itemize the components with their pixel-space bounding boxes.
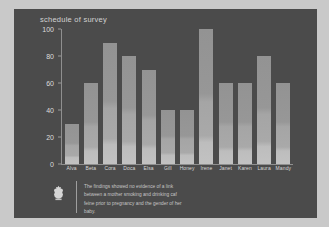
bar-slot	[235, 29, 254, 164]
y-axis-tick-label: 20	[46, 134, 54, 141]
bar-slot	[178, 29, 197, 164]
bar-series	[62, 29, 293, 164]
bar-slot	[255, 29, 274, 164]
y-axis: 020406080100	[40, 29, 58, 164]
bar-slot	[197, 29, 216, 164]
x-axis-tick-label: Alva	[62, 165, 81, 171]
x-axis-tick-label: Karen	[235, 165, 254, 171]
bar-honey	[180, 110, 194, 164]
bar-gill	[161, 110, 175, 164]
x-axis-tick-label: Doca	[120, 165, 139, 171]
caption-line: baby.	[84, 208, 295, 216]
bar-slot	[139, 29, 158, 164]
bar-laura	[257, 56, 271, 164]
y-axis-tick-label: 60	[46, 80, 54, 87]
x-axis-tick-label: Mandy	[274, 165, 293, 171]
bar-slot	[216, 29, 235, 164]
caption-line: feine prior to pregnancy and the gender …	[84, 200, 295, 208]
bar-alva	[65, 124, 79, 165]
slide-footer: The findings showed no evidence of a lin…	[40, 181, 295, 215]
bar-mandy	[276, 83, 290, 164]
bar-karen	[238, 83, 252, 164]
bar-slot	[81, 29, 100, 164]
bar-janet	[219, 83, 233, 164]
bar-chart-plot: 020406080100	[40, 29, 293, 174]
y-axis-tick-label: 0	[50, 161, 54, 168]
crest-emblem-icon	[40, 181, 76, 201]
y-axis-tick-label: 40	[46, 107, 54, 114]
bar-beta	[84, 83, 98, 164]
x-axis-tick-label: Irene	[197, 165, 216, 171]
y-axis-tick-label: 100	[42, 26, 54, 33]
bar-slot	[274, 29, 293, 164]
bar-slot	[62, 29, 81, 164]
x-axis-tick-label: Elsa	[139, 165, 158, 171]
x-axis-tick-label: Gill	[158, 165, 177, 171]
bar-elsa	[142, 70, 156, 165]
slide-screenshot: schedule of survey 020406080100 AlvaBeta…	[0, 0, 329, 227]
caption-line: The findings showed no evidence of a lin…	[84, 183, 295, 191]
bar-cora	[103, 43, 117, 165]
footer-divider	[76, 181, 77, 213]
bar-doca	[122, 56, 136, 164]
x-axis-tick-label: Beta	[81, 165, 100, 171]
caption-line: between a mother smoking and drinking ca…	[84, 191, 295, 199]
page-title: schedule of survey	[40, 15, 107, 24]
x-axis-tick-label: Cora	[101, 165, 120, 171]
y-axis-tick-label: 80	[46, 53, 54, 60]
bar-slot	[158, 29, 177, 164]
x-axis-tick-label: Janet	[216, 165, 235, 171]
slide-panel: schedule of survey 020406080100 AlvaBeta…	[14, 9, 317, 218]
bar-slot	[101, 29, 120, 164]
x-axis-tick-label: Honey	[178, 165, 197, 171]
footer-caption: The findings showed no evidence of a lin…	[84, 181, 295, 216]
bar-irene	[199, 29, 213, 164]
x-axis-labels: AlvaBetaCoraDocaElsaGillHoneyIreneJanetK…	[62, 165, 293, 171]
x-axis-tick-label: Laura	[255, 165, 274, 171]
bar-slot	[120, 29, 139, 164]
